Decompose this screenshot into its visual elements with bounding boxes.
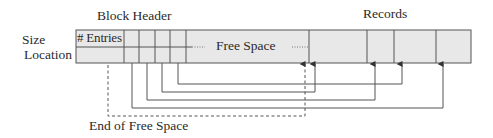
free-space-label: Free Space — [216, 38, 276, 54]
size-label: Size — [22, 32, 45, 48]
location-label: Location — [24, 47, 72, 63]
pointer-slot-2 — [147, 63, 375, 100]
block-header-label: Block Header — [97, 8, 172, 24]
end-of-free-space-label: End of Free Space — [89, 118, 188, 134]
slotted-page-diagram — [0, 0, 493, 138]
entries-label: # Entries — [77, 30, 122, 46]
records-label: Records — [363, 6, 407, 22]
pointer-slot-3 — [162, 63, 315, 92]
pointer-slot-1 — [132, 63, 443, 108]
pointer-slot-4 — [178, 63, 402, 84]
